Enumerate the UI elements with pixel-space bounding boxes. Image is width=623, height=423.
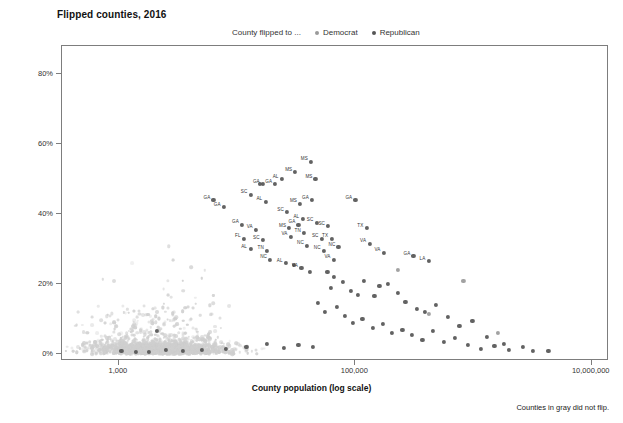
data-point-republican[interactable] bbox=[470, 319, 474, 323]
data-point-republican[interactable] bbox=[411, 254, 415, 258]
data-point-republican[interactable] bbox=[307, 270, 311, 274]
data-point-republican[interactable] bbox=[248, 193, 252, 197]
data-point-republican[interactable] bbox=[254, 228, 258, 232]
data-point-no-flip bbox=[238, 351, 240, 353]
data-point-republican[interactable] bbox=[370, 326, 374, 330]
data-point-republican[interactable] bbox=[442, 340, 446, 344]
data-point-republican[interactable] bbox=[242, 236, 246, 240]
data-point-republican[interactable] bbox=[289, 235, 293, 239]
data-point-republican[interactable] bbox=[332, 257, 336, 261]
data-point-republican[interactable] bbox=[322, 249, 326, 253]
data-point-republican[interactable] bbox=[390, 331, 394, 335]
data-point-republican[interactable] bbox=[264, 200, 268, 204]
data-point-republican[interactable] bbox=[293, 170, 297, 174]
data-point-republican[interactable] bbox=[349, 289, 353, 293]
data-point-republican[interactable] bbox=[240, 222, 244, 226]
data-point-republican[interactable] bbox=[340, 280, 344, 284]
data-point-republican[interactable] bbox=[403, 299, 407, 303]
data-point-no-flip bbox=[112, 330, 115, 333]
data-point-republican[interactable] bbox=[479, 347, 483, 351]
data-point-republican[interactable] bbox=[305, 243, 309, 247]
data-point-republican[interactable] bbox=[261, 238, 265, 242]
data-point-republican[interactable] bbox=[502, 341, 506, 345]
data-point-republican[interactable] bbox=[335, 305, 339, 309]
data-point-republican[interactable] bbox=[531, 349, 535, 353]
data-point-republican[interactable] bbox=[222, 205, 226, 209]
data-point-republican[interactable] bbox=[351, 320, 355, 324]
data-point-republican[interactable] bbox=[386, 282, 390, 286]
data-point-republican[interactable] bbox=[453, 336, 457, 340]
data-point-republican[interactable] bbox=[311, 345, 315, 349]
data-point-republican[interactable] bbox=[382, 250, 386, 254]
data-point-republican[interactable] bbox=[400, 327, 404, 331]
data-point-republican[interactable] bbox=[329, 285, 333, 289]
data-point-no-flip bbox=[218, 316, 221, 319]
data-point-republican[interactable] bbox=[377, 284, 381, 288]
data-point-republican[interactable] bbox=[323, 310, 327, 314]
data-point-republican[interactable] bbox=[372, 294, 376, 298]
data-point-republican[interactable] bbox=[296, 222, 300, 226]
data-point-republican[interactable] bbox=[326, 224, 330, 228]
data-point-republican[interactable] bbox=[485, 334, 489, 338]
data-point-republican[interactable] bbox=[248, 247, 252, 251]
data-point-republican[interactable] bbox=[367, 242, 371, 246]
data-point-democrat[interactable] bbox=[396, 268, 400, 272]
legend-label-democrat: Democrat bbox=[323, 28, 358, 37]
data-point-republican[interactable] bbox=[396, 291, 400, 295]
data-point-republican[interactable] bbox=[296, 343, 300, 347]
data-point-democrat[interactable] bbox=[427, 312, 431, 316]
legend-item-republican[interactable]: Republican bbox=[372, 28, 420, 37]
data-point-republican[interactable] bbox=[285, 210, 289, 214]
data-point-republican[interactable] bbox=[343, 313, 347, 317]
data-point-republican[interactable] bbox=[507, 348, 511, 352]
data-point-republican[interactable] bbox=[325, 270, 329, 274]
data-point-republican[interactable] bbox=[415, 306, 419, 310]
data-point-republican[interactable] bbox=[265, 341, 269, 345]
data-point-republican[interactable] bbox=[302, 231, 306, 235]
data-point-republican[interactable] bbox=[546, 348, 550, 352]
data-point-republican[interactable] bbox=[520, 345, 524, 349]
data-point-republican[interactable] bbox=[434, 303, 438, 307]
data-point-state-label: GA bbox=[345, 194, 352, 199]
data-point-republican[interactable] bbox=[356, 292, 360, 296]
data-point-no-flip bbox=[140, 350, 143, 353]
data-point-republican[interactable] bbox=[299, 266, 303, 270]
data-point-republican[interactable] bbox=[466, 343, 470, 347]
data-point-republican[interactable] bbox=[332, 275, 336, 279]
legend-item-democrat[interactable]: Democrat bbox=[315, 28, 358, 37]
data-point-republican[interactable] bbox=[427, 259, 431, 263]
data-point-republican[interactable] bbox=[353, 198, 357, 202]
data-point-republican[interactable] bbox=[284, 261, 288, 265]
data-point-republican[interactable] bbox=[287, 226, 291, 230]
data-point-democrat[interactable] bbox=[496, 331, 500, 335]
data-point-democrat[interactable] bbox=[461, 278, 465, 282]
data-point-republican[interactable] bbox=[365, 226, 369, 230]
data-point-republican[interactable] bbox=[446, 315, 450, 319]
data-point-republican[interactable] bbox=[492, 344, 496, 348]
data-point-republican[interactable] bbox=[261, 182, 265, 186]
data-point-republican[interactable] bbox=[301, 217, 305, 221]
data-point-republican[interactable] bbox=[298, 201, 302, 205]
data-point-republican[interactable] bbox=[457, 324, 461, 328]
data-point-republican[interactable] bbox=[430, 329, 434, 333]
data-point-no-flip bbox=[112, 351, 116, 355]
data-point-republican[interactable] bbox=[410, 333, 414, 337]
data-point-republican[interactable] bbox=[265, 249, 269, 253]
data-point-no-flip bbox=[132, 318, 136, 322]
data-point-republican[interactable] bbox=[360, 317, 364, 321]
data-point-republican[interactable] bbox=[330, 236, 334, 240]
data-point-republican[interactable] bbox=[273, 182, 277, 186]
data-point-state-label: NC bbox=[260, 254, 267, 259]
data-point-republican[interactable] bbox=[380, 322, 384, 326]
plot-area[interactable]: GAGAGAFLSCGAALALVASCTNNCGAALSCMSVAMSMSAL… bbox=[62, 46, 607, 359]
data-point-republican[interactable] bbox=[316, 301, 320, 305]
data-point-republican[interactable] bbox=[282, 346, 286, 350]
data-point-republican[interactable] bbox=[420, 338, 424, 342]
data-point-republican[interactable] bbox=[280, 177, 284, 181]
data-point-republican[interactable] bbox=[310, 198, 314, 202]
data-point-republican[interactable] bbox=[362, 278, 366, 282]
data-point-republican[interactable] bbox=[336, 245, 340, 249]
data-point-republican[interactable] bbox=[309, 159, 313, 163]
data-point-republican[interactable] bbox=[313, 177, 317, 181]
data-point-republican[interactable] bbox=[268, 257, 272, 261]
